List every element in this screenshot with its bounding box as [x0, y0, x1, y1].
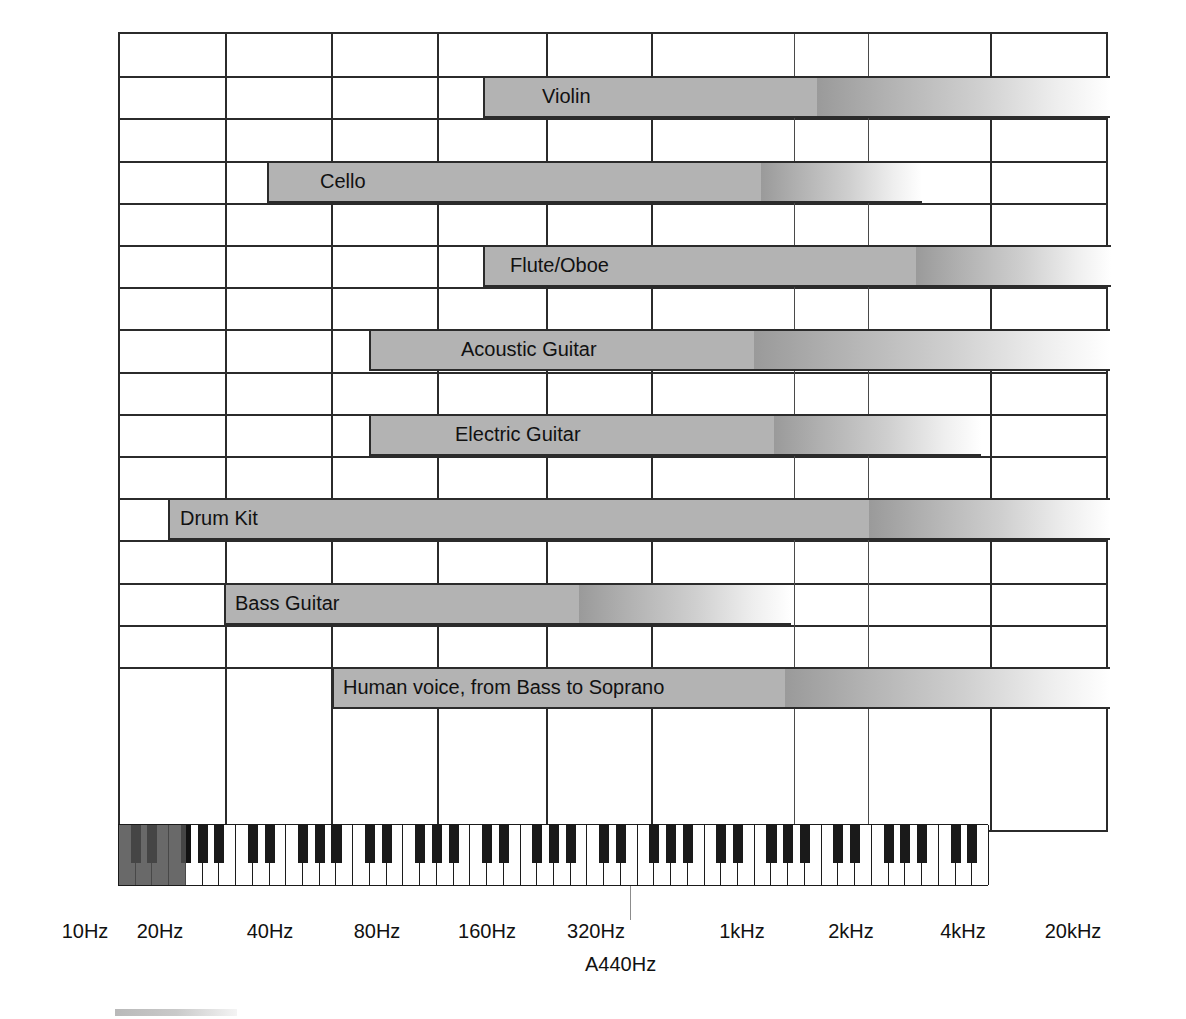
bar-label-electric-guitar: Electric Guitar — [455, 414, 581, 456]
grid-hline — [120, 625, 1106, 627]
axis-tick-40hz: 40Hz — [225, 920, 315, 943]
piano-black-key[interactable] — [850, 825, 860, 863]
bar-flute-oboe[interactable]: Flute/Oboe — [483, 245, 1111, 287]
piano-black-key[interactable] — [365, 825, 375, 863]
frequency-range-chart: ViolinCelloFlute/OboeAcoustic GuitarElec… — [0, 0, 1186, 1019]
bar-solid-drum-kit — [168, 498, 869, 540]
piano-black-key[interactable] — [917, 825, 927, 863]
bar-harmonics-cello — [761, 161, 922, 203]
bar-bass-guitar[interactable]: Bass Guitar — [224, 583, 791, 625]
piano-black-key[interactable] — [265, 825, 275, 863]
piano-black-key[interactable] — [900, 825, 910, 863]
grid-hline — [120, 372, 1106, 374]
piano-black-key[interactable] — [649, 825, 659, 863]
axis-tick-1khz: 1kHz — [697, 920, 787, 943]
bar-solid-violin — [483, 76, 817, 118]
piano-black-key[interactable] — [566, 825, 576, 863]
piano-black-key[interactable] — [951, 825, 961, 863]
axis-tick-320hz: 320Hz — [551, 920, 641, 943]
piano-black-key[interactable] — [666, 825, 676, 863]
piano-black-key[interactable] — [766, 825, 776, 863]
bar-harmonics-flute-oboe — [916, 245, 1111, 287]
a440-reference-line — [630, 886, 631, 920]
piano-black-key[interactable] — [833, 825, 843, 863]
bar-electric-guitar[interactable]: Electric Guitar — [369, 414, 981, 456]
piano-black-key[interactable] — [449, 825, 459, 863]
bar-harmonics-bass-guitar — [579, 583, 791, 625]
grid-hline — [120, 203, 1106, 205]
bar-row-violin: Violin — [120, 76, 1106, 118]
piano-black-key[interactable] — [382, 825, 392, 863]
piano-black-key[interactable] — [716, 825, 726, 863]
bar-row-acoustic-guitar: Acoustic Guitar — [120, 329, 1106, 371]
a440-label: A440Hz — [585, 953, 656, 976]
axis-tick-20khz: 20kHz — [1028, 920, 1118, 943]
bar-row-bass-guitar: Bass Guitar — [120, 583, 1106, 625]
piano-black-key[interactable] — [967, 825, 977, 863]
bar-harmonics-drum-kit — [869, 498, 1110, 540]
bar-label-violin: Violin — [542, 76, 591, 118]
bar-harmonics-violin — [817, 76, 1110, 118]
bar-label-bass-guitar: Bass Guitar — [235, 583, 339, 625]
bar-cello[interactable]: Cello — [267, 161, 922, 203]
piano-black-key[interactable] — [549, 825, 559, 863]
piano-black-key[interactable] — [733, 825, 743, 863]
bar-row-cello: Cello — [120, 161, 1106, 203]
piano-black-key[interactable] — [147, 825, 157, 863]
piano-black-key[interactable] — [783, 825, 793, 863]
piano-black-key[interactable] — [415, 825, 425, 863]
bar-acoustic-guitar[interactable]: Acoustic Guitar — [369, 329, 1110, 371]
piano-black-key[interactable] — [499, 825, 509, 863]
piano-black-key[interactable] — [331, 825, 341, 863]
piano-black-key[interactable] — [432, 825, 442, 863]
bar-label-drum-kit: Drum Kit — [180, 498, 258, 540]
bar-violin[interactable]: Violin — [483, 76, 1110, 118]
grid-hline — [120, 287, 1106, 289]
axis-tick-2khz: 2kHz — [806, 920, 896, 943]
bar-label-acoustic-guitar: Acoustic Guitar — [461, 329, 597, 371]
piano-black-key[interactable] — [315, 825, 325, 863]
bar-row-flute-oboe: Flute/Oboe — [120, 245, 1106, 287]
grid-hline — [120, 540, 1106, 542]
piano-black-key[interactable] — [482, 825, 492, 863]
bar-row-drum-kit: Drum Kit — [120, 498, 1106, 540]
bar-row-human-voice: Human voice, from Bass to Soprano — [120, 667, 1106, 709]
bar-label-human-voice: Human voice, from Bass to Soprano — [343, 667, 664, 709]
piano-black-key[interactable] — [800, 825, 810, 863]
piano-black-key[interactable] — [131, 825, 141, 863]
piano-black-key[interactable] — [599, 825, 609, 863]
piano-black-key[interactable] — [198, 825, 208, 863]
legend-gradient-swatch — [115, 1009, 237, 1016]
piano-black-key[interactable] — [532, 825, 542, 863]
piano-black-key[interactable] — [214, 825, 224, 863]
bar-harmonics-electric-guitar — [774, 414, 981, 456]
piano-black-key[interactable] — [298, 825, 308, 863]
bar-human-voice[interactable]: Human voice, from Bass to Soprano — [332, 667, 1110, 709]
piano-black-key[interactable] — [181, 825, 191, 863]
grid-hline — [120, 118, 1106, 120]
bar-harmonics-acoustic-guitar — [754, 329, 1110, 371]
piano-keyboard — [118, 824, 988, 886]
piano-black-key[interactable] — [248, 825, 258, 863]
bar-harmonics-human-voice — [785, 667, 1110, 709]
chart-grid: ViolinCelloFlute/OboeAcoustic GuitarElec… — [118, 32, 1108, 832]
bar-label-flute-oboe: Flute/Oboe — [510, 245, 609, 287]
axis-tick-4khz: 4kHz — [918, 920, 1008, 943]
piano-black-key[interactable] — [616, 825, 626, 863]
bar-drum-kit[interactable]: Drum Kit — [168, 498, 1110, 540]
axis-tick-20hz: 20Hz — [115, 920, 205, 943]
piano-black-key[interactable] — [683, 825, 693, 863]
axis-tick-160hz: 160Hz — [442, 920, 532, 943]
grid-hline — [120, 456, 1106, 458]
piano-black-key[interactable] — [884, 825, 894, 863]
bar-label-cello: Cello — [320, 161, 366, 203]
bar-row-electric-guitar: Electric Guitar — [120, 414, 1106, 456]
axis-tick-80hz: 80Hz — [332, 920, 422, 943]
